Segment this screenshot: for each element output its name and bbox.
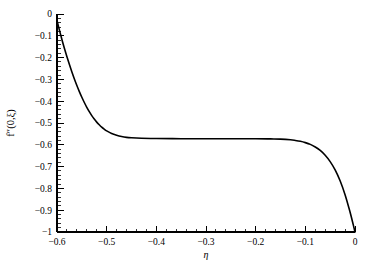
chart-figure: −0.6−0.5−0.4−0.3−0.2−0.10 0−0.1−0.2−0.3−… [0, 0, 378, 267]
y-tick-label: −0.1 [35, 31, 52, 41]
y-tick-label: −0.7 [35, 162, 52, 172]
y-tick-label: −0.4 [35, 97, 52, 107]
x-tick-label: −0.4 [148, 237, 165, 247]
x-tick-label: −0.5 [98, 237, 115, 247]
y-tick-label: −0.3 [35, 75, 52, 85]
y-tick-label: −0.9 [35, 206, 52, 216]
y-axis-major-ticks [57, 14, 64, 232]
x-tick-label: −0.3 [197, 237, 214, 247]
plot-canvas: −0.6−0.5−0.4−0.3−0.2−0.10 0−0.1−0.2−0.3−… [0, 0, 378, 267]
x-axis-major-ticks [57, 226, 355, 233]
y-axis-label-text: f″(0,ξ) [5, 109, 17, 137]
x-tick-label: 0 [353, 237, 358, 247]
y-tick-label: −0.8 [35, 184, 52, 194]
y-tick-label: 0 [47, 9, 52, 19]
x-tick-label: −0.1 [297, 237, 314, 247]
x-axis-label: η [204, 249, 209, 260]
y-tick-label: −0.2 [35, 53, 52, 63]
y-tick-label: −1 [42, 227, 52, 237]
x-axis-tick-labels: −0.6−0.5−0.4−0.3−0.2−0.10 [48, 237, 357, 247]
data-series-line [57, 21, 355, 232]
y-axis-label: f″(0,ξ) [5, 109, 17, 137]
y-tick-label: −0.6 [35, 140, 52, 150]
y-axis-tick-labels: 0−0.1−0.2−0.3−0.4−0.5−0.6−0.7−0.8−0.9−1 [35, 9, 52, 237]
x-tick-label: −0.6 [48, 237, 65, 247]
y-tick-label: −0.5 [35, 118, 52, 128]
x-tick-label: −0.2 [247, 237, 264, 247]
